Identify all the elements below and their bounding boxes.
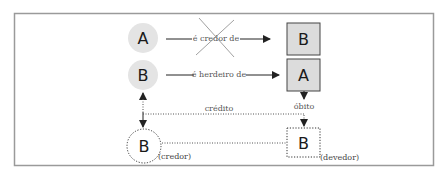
edge-heir-label: é herdeiro de — [192, 70, 247, 79]
node-box-b: B — [287, 23, 320, 55]
node-circle-a-label: A — [138, 29, 149, 48]
node-box-a-label: A — [298, 66, 309, 85]
node-circle-b: B — [128, 60, 158, 90]
node-box-b-label: B — [298, 30, 309, 49]
node-circle-a: A — [128, 23, 158, 53]
edge-death-label: óbito — [294, 102, 315, 111]
node-dotted-circle-b-label: B — [139, 137, 150, 156]
edge-credit-label: crédito — [205, 104, 234, 113]
role-creditor-label: (credor) — [158, 152, 191, 161]
edge-creditor-label: é credor de — [193, 34, 240, 43]
node-dotted-box-b-label: B — [298, 134, 309, 153]
inheritance-credit-diagram: A é credor de B B é herdeiro de A óbito — [0, 0, 447, 172]
node-circle-b-label: B — [138, 66, 149, 85]
node-box-a: A — [287, 59, 320, 91]
role-debtor-label: (devedor) — [320, 153, 359, 162]
